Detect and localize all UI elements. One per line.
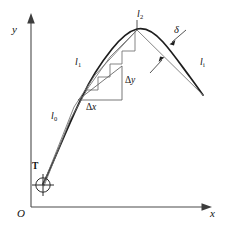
diagram-canvas — [0, 0, 231, 228]
arrow-pointer-icon — [170, 40, 176, 46]
delta-y-label: Δy — [125, 76, 135, 86]
segment-li-label: li — [200, 57, 205, 67]
x-axis-label: x — [210, 208, 215, 219]
deviation-pointer-lower — [150, 56, 164, 73]
arrow-up-icon — [27, 13, 35, 24]
arrow-pointer-icon — [159, 56, 165, 62]
x-axis — [31, 203, 212, 211]
segment-l0-sub: 0 — [54, 115, 57, 122]
delta-x-label: Δx — [86, 103, 96, 113]
deviation-label: δ — [174, 25, 179, 36]
interpolated-polyline-path — [43, 30, 203, 185]
delta-x-variable: x — [92, 102, 96, 112]
actual-curve-path — [43, 29, 203, 184]
delta-y-variable: y — [131, 75, 135, 85]
segment-li-sub: i — [203, 61, 205, 68]
segment-l1-sub: 1 — [78, 61, 81, 68]
y-axis — [27, 13, 35, 207]
segment-l0-label: l0 — [51, 111, 57, 121]
crosshair-circle-icon — [32, 174, 54, 196]
y-axis-label: y — [12, 24, 17, 35]
figure-root: y x O l0 l1 l2 li Δx Δy δ T — [0, 0, 231, 228]
target-label: T — [32, 162, 38, 172]
segment-l1-label: l1 — [75, 57, 81, 67]
segment-l2-sub: 2 — [140, 13, 143, 20]
origin-label: O — [17, 208, 25, 219]
segment-l2-label: l2 — [137, 9, 143, 19]
